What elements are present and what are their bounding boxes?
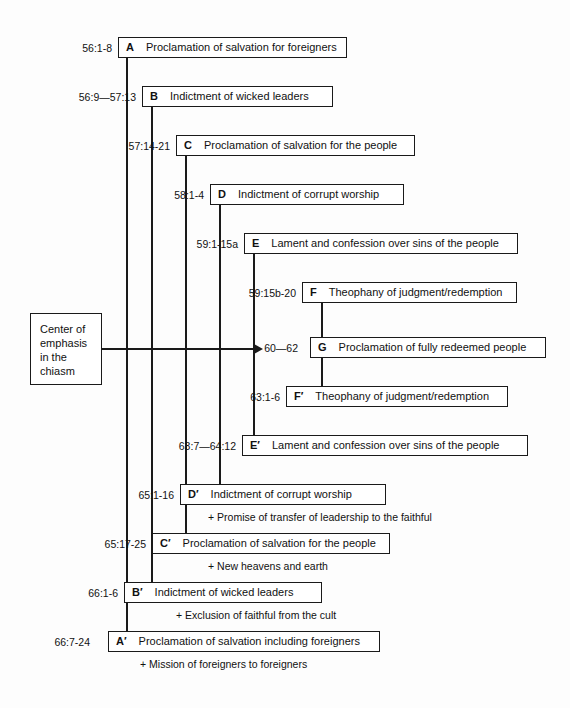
node-box-f-prime: F′ Theophany of judgment/redemption [286,386,508,407]
node-letter-c: C [184,140,192,151]
node-box-a: A Proclamation of salvation for foreigne… [118,37,347,58]
node-letter-g: G [318,342,327,353]
node-box-f: F Theophany of judgment/redemption [302,282,517,303]
center-line-2: emphasis [40,336,92,350]
node-text-c: Proclamation of salvation for the people [204,140,397,151]
node-text-a: Proclamation of salvation for foreigners [146,42,337,53]
node-box-a-prime: A′ Proclamation of salvation including f… [108,631,380,652]
cropped-header-text [0,0,570,4]
verse-ref-d-prime: 65:1-16 [66,490,174,501]
node-text-e-prime: Lament and confession over sins of the p… [272,440,499,451]
node-box-b: B Indictment of wicked leaders [142,86,333,107]
subnote-b-prime: + Exclusion of faithful from the cult [176,610,336,621]
center-emphasis-box: Center of emphasis in the chiasm [30,313,102,385]
node-text-f-prime: Theophany of judgment/redemption [315,391,489,402]
node-letter-c-prime: C′ [160,538,171,549]
node-letter-f-prime: F′ [294,391,303,402]
node-letter-e: E [252,238,259,249]
verse-ref-a: 56:1-8 [18,43,112,54]
connector-line-e [253,254,255,454]
node-text-f: Theophany of judgment/redemption [329,287,503,298]
node-text-b-prime: Indictment of wicked leaders [155,587,294,598]
node-text-e: Lament and confession over sins of the p… [271,238,498,249]
verse-ref-a-prime: 66:7-24 [0,637,90,648]
node-letter-a-prime: A′ [116,636,127,647]
node-box-b-prime: B′ Indictment of wicked leaders [124,582,322,603]
verse-ref-c-prime: 65:17-25 [40,539,146,550]
center-line-4: chiasm [40,364,92,378]
node-text-b: Indictment of wicked leaders [170,91,309,102]
subnote-a-prime: + Mission of foreigners to foreigners [140,659,307,670]
chiasm-diagram: Center of emphasis in the chiasm 56:1-8 … [0,0,570,708]
verse-ref-e-prime: 63:7—64:12 [100,441,236,452]
node-letter-a: A [126,42,134,53]
verse-ref-f-prime: 63:1-6 [180,392,280,403]
node-box-d: D Indictment of corrupt worship [210,184,404,205]
center-line-3: in the [40,350,92,364]
node-text-g: Proclamation of fully redeemed people [339,342,527,353]
verse-ref-c: 57:14-21 [60,141,170,152]
node-letter-f: F [310,287,317,298]
subnote-d-prime: + Promise of transfer of leadership to t… [208,512,432,523]
node-box-c: C Proclamation of salvation for the peop… [176,135,415,156]
center-line-1: Center of [40,322,92,336]
node-letter-d-prime: D′ [188,489,199,500]
verse-ref-e: 59:1-15a [130,239,238,250]
verse-ref-f: 59:15b-20 [186,288,296,299]
node-box-e: E Lament and confession over sins of the… [244,233,518,254]
node-box-c-prime: C′ Proclamation of salvation for the peo… [152,533,390,554]
node-text-d-prime: Indictment of corrupt worship [211,489,352,500]
node-text-d: Indictment of corrupt worship [238,189,379,200]
node-letter-b: B [150,91,158,102]
node-text-a-prime: Proclamation of salvation including fore… [139,636,360,647]
verse-ref-d: 58:1-4 [96,190,204,201]
node-box-d-prime: D′ Indictment of corrupt worship [180,484,386,505]
verse-ref-b-prime: 66:1-6 [24,588,118,599]
node-box-g: G Proclamation of fully redeemed people [310,337,546,358]
verse-ref-b: 56:9—57:13 [18,92,136,103]
node-box-e-prime: E′ Lament and confession over sins of th… [242,435,528,456]
node-letter-d: D [218,189,226,200]
node-text-c-prime: Proclamation of salvation for the people [183,538,376,549]
node-letter-e-prime: E′ [250,440,260,451]
verse-ref-g: 60—62 [204,343,298,354]
connector-line-b [151,107,153,601]
subnote-c-prime: + New heavens and earth [208,561,328,572]
node-letter-b-prime: B′ [132,587,143,598]
